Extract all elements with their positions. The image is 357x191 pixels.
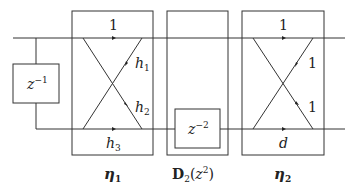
eta1-top-coef: 1 [109, 17, 118, 33]
eta1-h2-label: h2 [135, 99, 150, 117]
d2-title: D2(z2) [172, 165, 214, 184]
arrow-icon [282, 127, 286, 131]
eta2-top-coef: 1 [279, 17, 288, 33]
eta2-title: η2 [274, 165, 291, 184]
z-inverse-label: z−1 [26, 75, 48, 92]
arrow-icon [282, 36, 286, 40]
arrow-icon [295, 101, 299, 105]
eta1-h1-label: h1 [135, 55, 150, 73]
arrow-icon [112, 36, 116, 40]
eta1-h3-label: h3 [106, 135, 121, 153]
eta2-lower-coef: 1 [308, 99, 317, 115]
eta1-title: η1 [104, 165, 121, 184]
eta2-d-label: d [279, 135, 288, 151]
arrow-icon [112, 127, 116, 131]
lattice-filter-diagram: z−1 z−2 1 h1 h2 h3 η1 D2(z2) 1 1 1 d η2 [0, 0, 357, 191]
eta2-upper-coef: 1 [308, 55, 317, 71]
